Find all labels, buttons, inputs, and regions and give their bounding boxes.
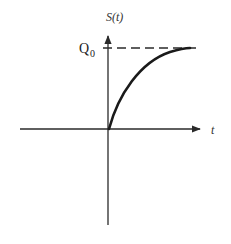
- y-axis-label: S(t): [106, 10, 123, 24]
- diagram-canvas: S(t) t Q 0: [0, 0, 231, 244]
- saturation-curve-diagram: S(t) t Q 0: [0, 0, 231, 244]
- saturation-curve: [109, 48, 190, 129]
- asymptote-label-main: Q: [79, 41, 89, 56]
- asymptote-label-subscript: 0: [90, 48, 95, 59]
- x-axis-label: t: [211, 123, 215, 137]
